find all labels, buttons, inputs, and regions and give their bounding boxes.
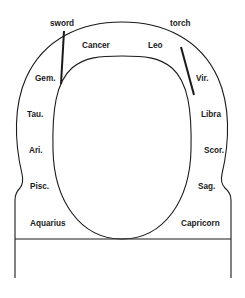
label-sagittarius: Sag. — [198, 182, 215, 191]
label-pisces: Pisc. — [30, 182, 49, 191]
label-scorpio: Scor. — [204, 146, 224, 155]
label-aries: Ari. — [29, 146, 43, 155]
label-capricorn: Capricorn — [181, 219, 220, 228]
label-cancer: Cancer — [82, 41, 111, 50]
label-aquarius: Aquarius — [30, 219, 66, 228]
label-libra: Libra — [201, 110, 221, 119]
label-leo: Leo — [148, 41, 163, 50]
label-virgo: Vir. — [196, 74, 209, 83]
inner-oval — [53, 56, 191, 239]
torch-line — [181, 47, 194, 95]
zodiac-diagram: sword torch Cancer Leo Gem. Vir. Tau. Li… — [0, 0, 245, 298]
outer-arch — [15, 22, 231, 278]
label-gemini: Gem. — [35, 74, 55, 83]
sword-line — [61, 31, 64, 84]
label-sword: sword — [50, 19, 74, 28]
label-torch: torch — [170, 19, 190, 28]
label-taurus: Tau. — [27, 110, 43, 119]
